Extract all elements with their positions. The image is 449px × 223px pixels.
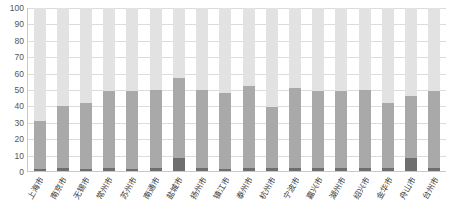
bar-stack[interactable] xyxy=(243,8,255,171)
bar-segment-middle-segment[interactable] xyxy=(428,91,440,168)
x-axis-label: 嘉兴市 xyxy=(306,176,325,201)
bar-segment-middle-segment[interactable] xyxy=(312,91,324,168)
bar-segment-middle-segment[interactable] xyxy=(80,103,92,170)
bar-segment-top-segment[interactable] xyxy=(335,8,347,91)
bar-stack[interactable] xyxy=(173,8,185,171)
x-axis-label-cell: 苏州市 xyxy=(120,174,143,223)
bar-stack[interactable] xyxy=(289,8,301,171)
bar-stack[interactable] xyxy=(359,8,371,171)
bar-segment-top-segment[interactable] xyxy=(57,8,69,106)
bar-column[interactable] xyxy=(191,8,214,171)
bar-segment-top-segment[interactable] xyxy=(382,8,394,103)
bar-column[interactable] xyxy=(121,8,144,171)
bar-segment-top-segment[interactable] xyxy=(243,8,255,86)
bar-column[interactable] xyxy=(307,8,330,171)
bar-segment-bottom-segment[interactable] xyxy=(219,169,231,171)
bar-segment-middle-segment[interactable] xyxy=(243,86,255,168)
bar-segment-bottom-segment[interactable] xyxy=(150,168,162,171)
bar-column[interactable] xyxy=(260,8,283,171)
bar-segment-top-segment[interactable] xyxy=(126,8,138,91)
bar-segment-bottom-segment[interactable] xyxy=(103,168,115,171)
bar-segment-top-segment[interactable] xyxy=(173,8,185,78)
bar-column[interactable] xyxy=(423,8,446,171)
bar-segment-top-segment[interactable] xyxy=(80,8,92,103)
bar-segment-bottom-segment[interactable] xyxy=(126,169,138,171)
bar-segment-bottom-segment[interactable] xyxy=(34,169,46,171)
bar-segment-bottom-segment[interactable] xyxy=(57,168,69,171)
bar-segment-middle-segment[interactable] xyxy=(196,90,208,168)
bar-segment-bottom-segment[interactable] xyxy=(312,168,324,171)
x-axis-label: 南通市 xyxy=(143,176,162,201)
bar-segment-top-segment[interactable] xyxy=(219,8,231,93)
y-axis-tick-90: 90 xyxy=(0,20,24,29)
bar-stack[interactable] xyxy=(335,8,347,171)
bar-stack[interactable] xyxy=(34,8,46,171)
bar-segment-top-segment[interactable] xyxy=(359,8,371,90)
bar-segment-middle-segment[interactable] xyxy=(57,106,69,168)
bar-segment-middle-segment[interactable] xyxy=(289,88,301,168)
bar-column[interactable] xyxy=(214,8,237,171)
bar-column[interactable] xyxy=(283,8,306,171)
bar-column[interactable] xyxy=(98,8,121,171)
bar-segment-middle-segment[interactable] xyxy=(359,90,371,168)
bar-segment-middle-segment[interactable] xyxy=(266,107,278,167)
bar-column[interactable] xyxy=(28,8,51,171)
bar-segment-top-segment[interactable] xyxy=(196,8,208,90)
bar-segment-top-segment[interactable] xyxy=(266,8,278,107)
bar-stack[interactable] xyxy=(80,8,92,171)
bar-segment-bottom-segment[interactable] xyxy=(405,158,417,171)
bar-segment-middle-segment[interactable] xyxy=(382,103,394,168)
bar-segment-bottom-segment[interactable] xyxy=(173,158,185,171)
bar-segment-top-segment[interactable] xyxy=(289,8,301,88)
bar-segment-middle-segment[interactable] xyxy=(405,96,417,158)
x-axis-label-cell: 盐城市 xyxy=(167,174,190,223)
bar-segment-top-segment[interactable] xyxy=(312,8,324,91)
bar-stack[interactable] xyxy=(126,8,138,171)
x-axis-label-cell: 无锡市 xyxy=(74,174,97,223)
bar-segment-bottom-segment[interactable] xyxy=(266,168,278,171)
bar-segment-top-segment[interactable] xyxy=(428,8,440,91)
bar-column[interactable] xyxy=(400,8,423,171)
bar-column[interactable] xyxy=(376,8,399,171)
bar-segment-bottom-segment[interactable] xyxy=(335,168,347,171)
bar-segment-middle-segment[interactable] xyxy=(150,90,162,168)
bar-column[interactable] xyxy=(330,8,353,171)
bar-segment-bottom-segment[interactable] xyxy=(289,168,301,171)
bar-segment-top-segment[interactable] xyxy=(150,8,162,90)
bar-stack[interactable] xyxy=(428,8,440,171)
bar-segment-bottom-segment[interactable] xyxy=(359,168,371,171)
bar-segment-middle-segment[interactable] xyxy=(34,121,46,170)
bar-segment-middle-segment[interactable] xyxy=(219,93,231,170)
bar-stack[interactable] xyxy=(266,8,278,171)
x-axis-label: 台州市 xyxy=(422,176,441,201)
bar-column[interactable] xyxy=(167,8,190,171)
bar-column[interactable] xyxy=(144,8,167,171)
bar-stack[interactable] xyxy=(57,8,69,171)
bar-segment-bottom-segment[interactable] xyxy=(196,168,208,171)
bar-segment-bottom-segment[interactable] xyxy=(382,168,394,171)
bar-segment-middle-segment[interactable] xyxy=(126,91,138,169)
bar-stack[interactable] xyxy=(382,8,394,171)
bar-segment-top-segment[interactable] xyxy=(103,8,115,91)
bar-stack[interactable] xyxy=(196,8,208,171)
bar-stack[interactable] xyxy=(150,8,162,171)
bar-stack[interactable] xyxy=(103,8,115,171)
bar-column[interactable] xyxy=(51,8,74,171)
bar-column[interactable] xyxy=(74,8,97,171)
bar-segment-bottom-segment[interactable] xyxy=(80,169,92,171)
y-axis-tick-100: 100 xyxy=(0,4,24,13)
bar-stack[interactable] xyxy=(219,8,231,171)
bar-stack[interactable] xyxy=(405,8,417,171)
x-axis-label: 杭州市 xyxy=(259,176,278,201)
bar-segment-bottom-segment[interactable] xyxy=(428,168,440,171)
bar-segment-bottom-segment[interactable] xyxy=(243,168,255,171)
bar-segment-top-segment[interactable] xyxy=(34,8,46,120)
bar-stack[interactable] xyxy=(312,8,324,171)
bar-segment-middle-segment[interactable] xyxy=(335,91,347,168)
bar-column[interactable] xyxy=(237,8,260,171)
bar-column[interactable] xyxy=(353,8,376,171)
x-axis-label: 盐城市 xyxy=(166,176,185,201)
bar-segment-middle-segment[interactable] xyxy=(173,78,185,158)
bar-segment-top-segment[interactable] xyxy=(405,8,417,96)
bar-segment-middle-segment[interactable] xyxy=(103,91,115,168)
